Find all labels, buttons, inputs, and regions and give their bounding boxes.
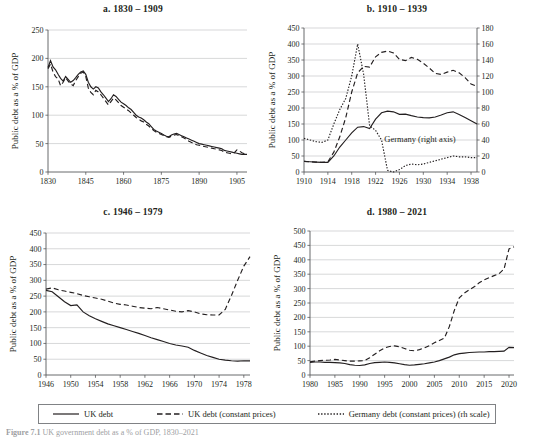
legend-label-0: UK debt [84, 410, 113, 419]
svg-text:100: 100 [288, 136, 300, 145]
svg-text:2010: 2010 [451, 380, 467, 389]
legend-label-2: Germany debt (constant prices) (rh scale… [349, 410, 490, 419]
series-line [304, 51, 477, 162]
svg-text:Public debt as a % of GDP: Public debt as a % of GDP [8, 256, 18, 353]
svg-text:300: 300 [288, 72, 300, 81]
svg-text:1962: 1962 [137, 380, 153, 389]
svg-text:1990: 1990 [352, 380, 368, 389]
svg-text:100: 100 [32, 111, 44, 120]
panel-b-plot: 0501001502002503003504004500204060801001… [264, 0, 530, 203]
svg-text:Public debt as a % of GDP: Public debt as a % of GDP [272, 255, 282, 352]
svg-text:200: 200 [32, 54, 44, 63]
figure-container: a. 1830 – 1909 0501001502002501830184518… [0, 0, 533, 438]
svg-text:1875: 1875 [153, 177, 169, 186]
svg-text:150: 150 [30, 324, 42, 333]
series-line [46, 290, 250, 361]
svg-text:60: 60 [482, 120, 490, 129]
legend-item-uk-debt: UK debt [53, 410, 113, 419]
svg-text:2020: 2020 [501, 380, 517, 389]
svg-text:500: 500 [294, 227, 306, 236]
svg-text:1978: 1978 [236, 380, 252, 389]
caption-text: UK government debt as a % of GDP, 1830–2… [43, 428, 199, 437]
svg-text:400: 400 [30, 245, 42, 254]
caption-label: Figure [6, 428, 29, 437]
panel-a-plot: 050100150200250183018451860187518901905P… [0, 0, 266, 203]
chart-panel-b: b. 1910 – 1939 0501001502002503003504004… [264, 0, 530, 203]
chart-panel-a: a. 1830 – 1909 0501001502002501830184518… [0, 0, 266, 203]
svg-text:1934: 1934 [439, 177, 455, 186]
series-line [46, 257, 250, 315]
chart-legend: UK debt UK debt (constant prices) German… [38, 404, 496, 424]
svg-text:100: 100 [30, 339, 42, 348]
svg-text:20: 20 [482, 152, 490, 161]
svg-text:400: 400 [288, 40, 300, 49]
svg-text:450: 450 [294, 241, 306, 250]
svg-text:2000: 2000 [402, 380, 418, 389]
series-line [48, 64, 247, 154]
figure-caption: Figure 7.1 UK government debt as a % of … [6, 428, 526, 437]
svg-text:1966: 1966 [162, 380, 178, 389]
panel-c-plot: 0501001502002503003504004501946195019541… [0, 203, 266, 406]
svg-text:1930: 1930 [415, 177, 431, 186]
svg-text:1958: 1958 [112, 380, 128, 389]
svg-text:1905: 1905 [229, 177, 245, 186]
svg-text:250: 250 [32, 26, 44, 35]
svg-text:1938: 1938 [463, 177, 479, 186]
series-line [310, 247, 514, 362]
svg-text:50: 50 [292, 152, 300, 161]
svg-text:1970: 1970 [186, 380, 202, 389]
svg-text:1914: 1914 [320, 177, 336, 186]
svg-text:50: 50 [298, 357, 306, 366]
svg-text:1946: 1946 [38, 380, 54, 389]
svg-text:1922: 1922 [368, 177, 384, 186]
svg-text:50: 50 [36, 140, 44, 149]
svg-text:150: 150 [288, 120, 300, 129]
svg-text:1860: 1860 [116, 177, 132, 186]
svg-text:400: 400 [294, 256, 306, 265]
svg-text:350: 350 [30, 260, 42, 269]
svg-text:250: 250 [288, 88, 300, 97]
svg-text:300: 300 [294, 285, 306, 294]
svg-text:1995: 1995 [377, 380, 393, 389]
svg-text:1974: 1974 [211, 380, 227, 389]
svg-text:120: 120 [482, 72, 494, 81]
svg-text:250: 250 [30, 292, 42, 301]
svg-text:200: 200 [30, 308, 42, 317]
svg-text:100: 100 [482, 88, 494, 97]
svg-text:Public debt as a % of GDP: Public debt as a % of GDP [267, 52, 277, 149]
svg-text:350: 350 [294, 270, 306, 279]
chart-panel-c: c. 1946 – 1979 0501001502002503003504004… [0, 203, 266, 406]
legend-label-1: UK debt (constant prices) [188, 410, 276, 419]
svg-text:140: 140 [482, 56, 494, 65]
plot-annotation: Germany (right axis) [384, 134, 455, 144]
svg-text:2015: 2015 [476, 380, 492, 389]
svg-text:1890: 1890 [191, 177, 207, 186]
svg-text:150: 150 [32, 83, 44, 92]
panel-d-plot: 0501001502002503003504004505001980198519… [264, 203, 530, 406]
legend-swatch-dotted [318, 410, 344, 418]
svg-text:1950: 1950 [63, 380, 79, 389]
svg-text:40: 40 [482, 136, 490, 145]
svg-text:450: 450 [288, 24, 300, 33]
svg-text:1954: 1954 [87, 380, 103, 389]
svg-text:150: 150 [294, 328, 306, 337]
svg-text:250: 250 [294, 299, 306, 308]
legend-item-uk-debt-constant-prices: UK debt (constant prices) [157, 410, 276, 419]
legend-item-germany-debt-constant-prices: Germany debt (constant prices) (rh scale… [318, 410, 490, 419]
svg-text:300: 300 [30, 276, 42, 285]
caption-number: 7.1 [31, 428, 41, 437]
svg-text:200: 200 [294, 313, 306, 322]
svg-text:1830: 1830 [40, 177, 56, 186]
svg-text:0: 0 [482, 168, 486, 177]
svg-text:50: 50 [34, 355, 42, 364]
svg-text:350: 350 [288, 56, 300, 65]
svg-text:2005: 2005 [426, 380, 442, 389]
svg-text:100: 100 [294, 342, 306, 351]
svg-text:160: 160 [482, 40, 494, 49]
chart-panel-d: d. 1980 – 2021 0501001502002503003504004… [264, 203, 530, 406]
svg-text:1918: 1918 [344, 177, 360, 186]
series-line [48, 61, 247, 155]
legend-swatch-solid [53, 410, 79, 418]
svg-text:1910: 1910 [296, 177, 312, 186]
svg-text:200: 200 [288, 104, 300, 113]
